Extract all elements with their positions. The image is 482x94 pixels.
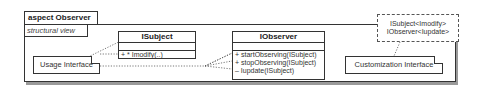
class-iobserver: IObserver + startObserving(ISubject) + s… — [232, 31, 325, 80]
customization-interface-note: Customization Interface — [345, 56, 443, 74]
operation: – Iupdate(ISubject) — [233, 67, 324, 75]
class-name: ISubject — [119, 32, 195, 43]
class-name: IObserver — [233, 32, 324, 43]
note-text: Customization Interface — [355, 60, 434, 69]
operation: + * Imodify(..) — [119, 51, 195, 59]
attributes-compartment — [233, 43, 324, 51]
note-fold-icon — [91, 56, 100, 64]
attributes-compartment — [119, 43, 195, 51]
note-fold-icon — [434, 56, 443, 64]
usage-interface-note: Usage Interface — [33, 56, 100, 74]
template-parameter: IObserver<Iupdate> — [378, 28, 458, 36]
template-parameter: ISubject<Imodify> — [378, 20, 458, 28]
template-parameters-box: ISubject<Imodify> IObserver<Iupdate> — [377, 14, 459, 42]
operation: + startObserving(ISubject) — [233, 51, 324, 59]
operation: + stopObserving(ISubject) — [233, 59, 324, 67]
note-text: Usage Interface — [40, 60, 93, 69]
class-isubject: ISubject + * Imodify(..) — [118, 31, 196, 59]
